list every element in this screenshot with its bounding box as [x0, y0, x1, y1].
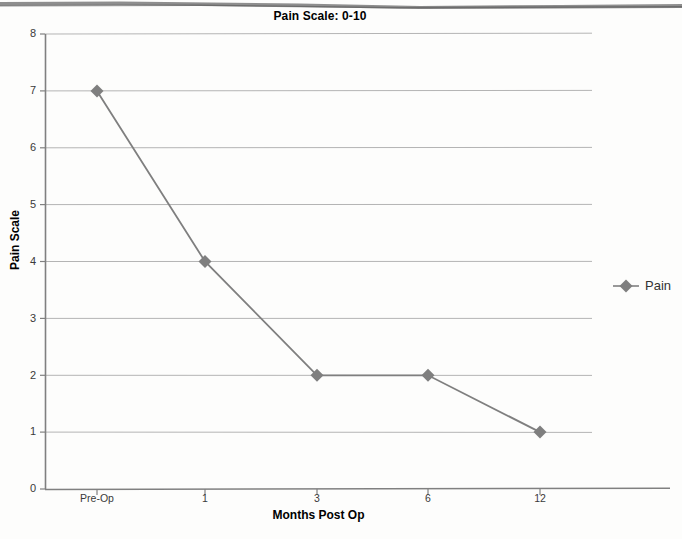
legend-label-pain: Pain [645, 278, 671, 293]
x-tick-label: 12 [500, 492, 580, 504]
x-tick-label: 6 [388, 492, 468, 504]
y-tick-label: 2 [12, 369, 36, 381]
x-tick-label: 3 [277, 492, 357, 504]
chart-page: Pain Scale: 0-10 Pain Scale Months Post … [0, 0, 682, 539]
x-tick-label: 1 [165, 492, 245, 504]
chart-title: Pain Scale: 0-10 [0, 9, 640, 23]
data-point-marker [91, 84, 104, 97]
legend-marker-diamond-icon [613, 279, 639, 293]
y-tick-label: 6 [12, 141, 36, 153]
chart-legend: Pain [613, 278, 671, 293]
data-point-marker [534, 426, 547, 439]
x-axis-title: Months Post Op [45, 508, 592, 522]
x-tick-label: Pre-Op [57, 492, 137, 504]
y-tick-label: 5 [12, 198, 36, 210]
y-tick-label: 0 [12, 482, 36, 494]
data-point-marker [422, 369, 435, 382]
y-tick-label: 8 [12, 27, 36, 39]
y-tick-marks [40, 34, 45, 489]
chart-plot-area [0, 0, 682, 539]
y-tick-label: 3 [12, 312, 36, 324]
y-tick-label: 7 [12, 84, 36, 96]
y-tick-label: 1 [12, 425, 36, 437]
y-tick-label: 4 [12, 255, 36, 267]
